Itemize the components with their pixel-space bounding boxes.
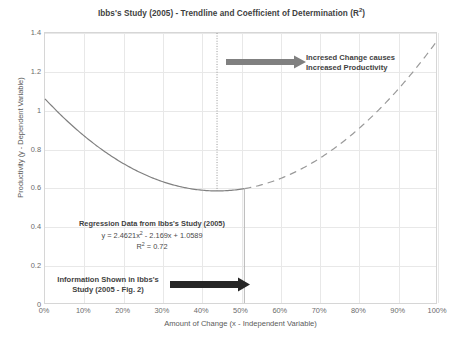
- y-axis-tick-label: 1.4: [3, 28, 41, 37]
- information-shown-line-1: Information Shown in Ibbs's: [44, 275, 172, 285]
- regression-equation-prefix: y = 2.4621x: [101, 231, 139, 240]
- x-axis-tick-label: 30%: [142, 306, 182, 315]
- chart-title: Ibbs's Study (2005) - Trendline and Coef…: [0, 7, 463, 18]
- x-axis-tick-label: 40%: [181, 306, 221, 315]
- chart-title-main: Ibbs's Study (2005) - Trendline and Coef…: [98, 9, 359, 18]
- regression-heading: Regression Data from Ibbs's Study (2005): [58, 219, 246, 229]
- trendline-svg: [45, 33, 436, 303]
- increased-change-annotation: Incresed Change causes Increased Product…: [306, 53, 431, 74]
- x-axis-tick-label: 60%: [260, 306, 300, 315]
- x-axis-tick-label: 80%: [338, 306, 378, 315]
- information-shown-line-2: Study (2005 - Fig. 2): [44, 285, 172, 295]
- x-axis-tick-label: 100%: [417, 306, 457, 315]
- x-axis-tick-label: 0%: [24, 306, 64, 315]
- x-axis-tick-label: 70%: [299, 306, 339, 315]
- chart-title-tail: ): [362, 9, 365, 18]
- y-axis-title: Productivity (y - Dependent Variable): [16, 38, 25, 238]
- x-axis-tick-label: 90%: [378, 306, 418, 315]
- regression-r-squared: R2 = 0.72: [58, 241, 246, 252]
- information-shown-arrow: [170, 277, 252, 292]
- x-axis-tick-label: 10%: [63, 306, 103, 315]
- gridline-vertical: [438, 33, 439, 303]
- chart-page: Ibbs's Study (2005) - Trendline and Coef…: [0, 0, 463, 340]
- x-axis-tick-labels: 0%10%20%30%40%50%60%70%80%90%100%: [44, 306, 437, 320]
- regression-equation: y = 2.4621x2 - 2.169x + 1.0589: [58, 230, 246, 241]
- x-axis-tick-label: 20%: [103, 306, 143, 315]
- information-shown-annotation: Information Shown in Ibbs's Study (2005 …: [44, 275, 172, 296]
- x-axis-tick-label: 50%: [221, 306, 261, 315]
- trendline-solid-path: [45, 99, 244, 191]
- increased-change-line-2: Increased Productivity: [306, 63, 431, 73]
- x-axis-title: Amount of Change (x - Independent Variab…: [44, 319, 437, 328]
- regression-equation-suffix: - 2.169x + 1.0589: [143, 231, 203, 240]
- y-axis-tick-label: 0.2: [3, 261, 41, 270]
- r-squared-suffix: = 0.72: [145, 243, 168, 252]
- regression-data-annotation: Regression Data from Ibbs's Study (2005)…: [58, 219, 246, 253]
- increased-change-line-1: Incresed Change causes: [306, 53, 431, 63]
- increased-change-arrow: [226, 54, 308, 70]
